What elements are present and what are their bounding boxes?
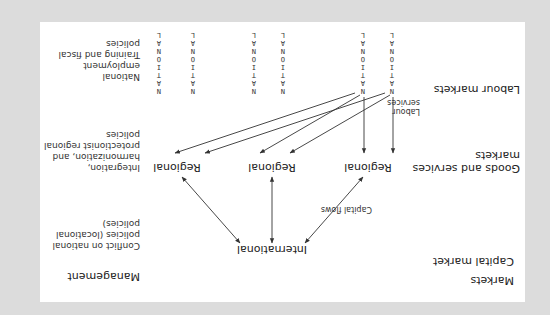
capital-flows-label: Capital flows (321, 205, 372, 214)
labour-services-label-line2: services (387, 98, 420, 107)
svg-text:policies: policies (106, 130, 140, 140)
international-node: International (237, 243, 307, 256)
svg-text:Training and fiscal: Training and fiscal (59, 50, 142, 60)
national-column-1: NATIONAL (389, 31, 394, 95)
capital-market-label: Capital market (432, 255, 514, 268)
svg-text:Integration,: Integration, (88, 163, 140, 173)
svg-text:policies: policies (106, 39, 140, 49)
management-header: Management (67, 270, 140, 283)
regional-node-2: Regional (248, 161, 295, 174)
svg-text:policies): policies) (103, 219, 140, 229)
labour-services-label-line1: Labour (392, 107, 420, 116)
svg-text:Conflict on national: Conflict on national (52, 241, 140, 251)
regional-node-3: Regional (153, 161, 200, 174)
regional-node-1: Regional (344, 161, 391, 174)
svg-text:National: National (102, 72, 140, 82)
diagram-figure: Markets Management Capital market Goods … (0, 0, 550, 315)
national-column-5: NATIONAL (190, 31, 195, 95)
markets-header: Markets (470, 274, 514, 287)
national-column-2: NATIONAL (360, 31, 365, 95)
labour-markets-label: Labour markets (433, 83, 520, 96)
svg-text:policies (locational: policies (locational (56, 230, 140, 240)
diagram-canvas: Markets Management Capital market Goods … (0, 0, 550, 315)
national-column-4: NATIONAL (251, 31, 256, 95)
svg-text:protectionist regional: protectionist regional (44, 141, 140, 151)
national-column-6: NATIONAL (156, 31, 161, 95)
goods-services-label-line2: markets (475, 149, 520, 162)
svg-text:harmonization, and: harmonization, and (53, 152, 140, 162)
goods-services-label-line1: Goods and services (412, 162, 520, 175)
svg-text:employment: employment (83, 61, 140, 71)
national-column-3: NATIONAL (280, 31, 285, 95)
